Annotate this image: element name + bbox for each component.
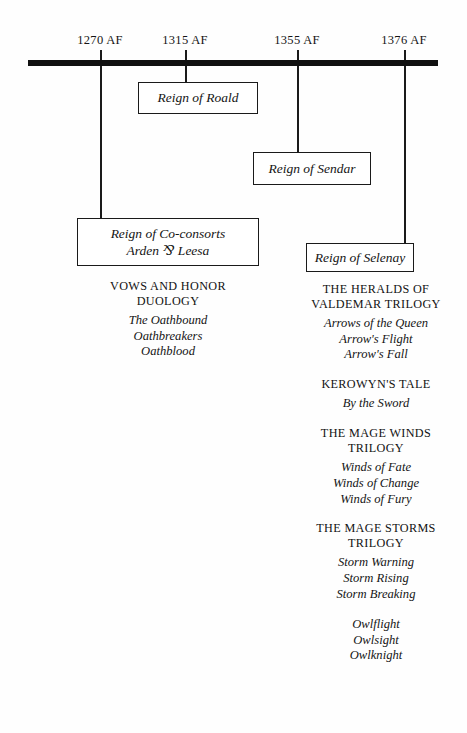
- book-title: Winds of Fate: [296, 460, 456, 476]
- book-title: Arrow's Fall: [296, 347, 456, 363]
- reign-label-roald: Reign of Roald: [158, 89, 239, 106]
- series-heading-mage-storms: THE MAGE STORMS TRILOGY: [296, 521, 456, 551]
- date-label-1355: 1355 AF: [274, 33, 320, 48]
- connector-1315-to-roald: [185, 66, 187, 82]
- series-heading-line1: THE HERALDS OF: [296, 282, 456, 297]
- book-title: Oathbreakers: [77, 329, 259, 345]
- series-heading-line1: KEROWYN'S TALE: [296, 377, 456, 392]
- connector-1355-to-sendar: [297, 66, 299, 152]
- series-heading-kerowyns-tale: KEROWYN'S TALE: [296, 377, 456, 392]
- series-heading-vows-and-honor: VOWS AND HONOR DUOLOGY: [77, 279, 259, 309]
- right-series-column: THE HERALDS OF VALDEMAR TRILOGY Arrows o…: [296, 282, 456, 678]
- reign-label-co-consorts-names: Arden ⅋ Leesa: [127, 242, 210, 259]
- book-title: Winds of Fury: [296, 492, 456, 508]
- connector-1376-to-selenay: [404, 66, 406, 243]
- book-title: By the Sword: [296, 396, 456, 412]
- reign-box-sendar: Reign of Sendar: [253, 152, 371, 185]
- book-title: Owlsight: [296, 633, 456, 649]
- date-label-1270: 1270 AF: [77, 33, 123, 48]
- series-heading-line2: VALDEMAR TRILOGY: [296, 297, 456, 312]
- series-heading-line1: VOWS AND HONOR: [77, 279, 259, 294]
- book-title: Storm Rising: [296, 571, 456, 587]
- series-block-kerowyns-tale: KEROWYN'S TALE By the Sword: [296, 377, 456, 412]
- timeline-axis-bar: [28, 60, 438, 66]
- book-title: Owlknight: [296, 648, 456, 664]
- book-title: Owlflight: [296, 617, 456, 633]
- series-heading-line2: TRILOGY: [296, 441, 456, 456]
- series-heading-line2: TRILOGY: [296, 536, 456, 551]
- reign-label-sendar: Reign of Sendar: [269, 160, 356, 177]
- series-block-mage-storms: THE MAGE STORMS TRILOGY Storm Warning St…: [296, 521, 456, 602]
- series-heading-line1: THE MAGE STORMS: [296, 521, 456, 536]
- connector-1270-to-co-consorts: [100, 66, 102, 218]
- book-title: Storm Warning: [296, 555, 456, 571]
- book-title: Arrow's Flight: [296, 332, 456, 348]
- series-block-heralds-of-valdemar: THE HERALDS OF VALDEMAR TRILOGY Arrows o…: [296, 282, 456, 363]
- series-heading-line1: THE MAGE WINDS: [296, 426, 456, 441]
- reign-box-selenay: Reign of Selenay: [306, 243, 414, 272]
- series-heading-mage-winds: THE MAGE WINDS TRILOGY: [296, 426, 456, 456]
- book-title: Arrows of the Queen: [296, 316, 456, 332]
- series-heading-line2: DUOLOGY: [77, 294, 259, 309]
- reign-box-roald: Reign of Roald: [138, 82, 258, 114]
- book-title: The Oathbound: [77, 313, 259, 329]
- book-title: Oathblood: [77, 344, 259, 360]
- reign-box-co-consorts: Reign of Co-consorts Arden ⅋ Leesa: [77, 218, 259, 266]
- series-block-mage-winds: THE MAGE WINDS TRILOGY Winds of Fate Win…: [296, 426, 456, 507]
- book-title: Storm Breaking: [296, 587, 456, 603]
- date-label-1376: 1376 AF: [381, 33, 427, 48]
- reign-label-co-consorts: Reign of Co-consorts: [111, 225, 226, 242]
- timeline-diagram: 1270 AF 1315 AF 1355 AF 1376 AF Reign of…: [0, 0, 467, 733]
- book-title: Winds of Change: [296, 476, 456, 492]
- series-block-owl-trilogy: Owlflight Owlsight Owlknight: [296, 617, 456, 665]
- reign-label-selenay: Reign of Selenay: [315, 249, 406, 266]
- series-heading-heralds-of-valdemar: THE HERALDS OF VALDEMAR TRILOGY: [296, 282, 456, 312]
- date-label-1315: 1315 AF: [162, 33, 208, 48]
- series-block-vows-and-honor: VOWS AND HONOR DUOLOGY The Oathbound Oat…: [77, 279, 259, 360]
- left-series-column: VOWS AND HONOR DUOLOGY The Oathbound Oat…: [77, 279, 259, 374]
